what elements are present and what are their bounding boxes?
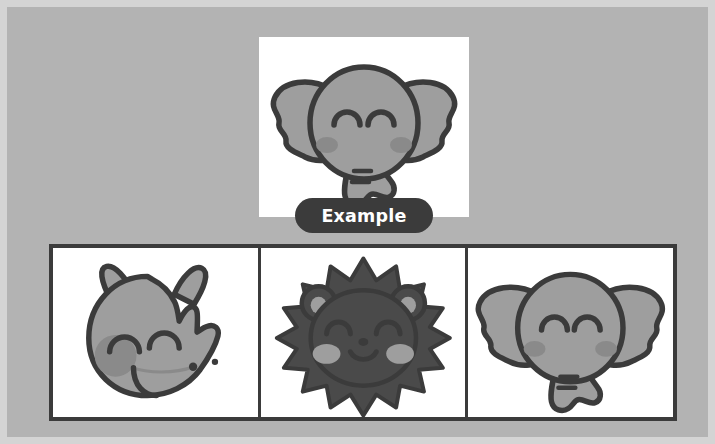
example-label-text: Example (321, 206, 406, 226)
example-card (259, 37, 469, 217)
elephant-face-icon (468, 248, 673, 417)
example-label-pill: Example (295, 198, 433, 233)
option-cell-rhino[interactable] (53, 248, 261, 417)
elephant-face-icon (259, 37, 469, 217)
options-row (49, 244, 677, 421)
option-cell-elephant[interactable] (468, 248, 673, 417)
rhino-face-icon (53, 248, 258, 417)
lion-face-icon (261, 248, 466, 417)
option-cell-lion[interactable] (261, 248, 469, 417)
exercise-canvas: Example (0, 0, 715, 444)
